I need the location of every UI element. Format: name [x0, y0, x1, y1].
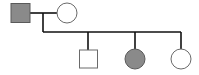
mother-unaffected-female-circle: [57, 3, 77, 23]
daughter-affected-female-circle: [125, 49, 145, 69]
daughter-unaffected-female-circle: [171, 49, 191, 69]
relationship-lines: [30, 13, 181, 50]
father-affected-male-square: [11, 4, 30, 23]
generation-2: [80, 49, 192, 69]
pedigree-diagram: [0, 0, 199, 75]
son-unaffected-male-square: [80, 50, 98, 68]
